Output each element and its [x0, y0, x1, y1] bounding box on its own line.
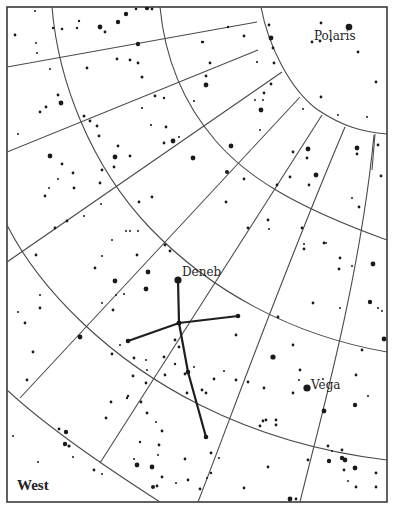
- star: [17, 311, 19, 313]
- star: [343, 469, 346, 472]
- star: [61, 163, 64, 166]
- star: [101, 255, 103, 257]
- star: [275, 419, 278, 422]
- star: [135, 8, 138, 11]
- star: [259, 108, 264, 113]
- star: [382, 337, 387, 342]
- star: [72, 172, 75, 175]
- star: [339, 257, 342, 260]
- star: [37, 461, 39, 463]
- star: [12, 435, 14, 437]
- star: [174, 339, 177, 342]
- star: [144, 287, 149, 292]
- star: [277, 316, 280, 319]
- star: [94, 267, 97, 270]
- star: [100, 203, 102, 205]
- star: [161, 430, 164, 433]
- star: [135, 463, 140, 468]
- star: [358, 206, 361, 209]
- star: [145, 359, 147, 361]
- star: [292, 392, 295, 395]
- star: [205, 392, 208, 395]
- star: [52, 27, 54, 29]
- star: [101, 473, 103, 475]
- constellation-line: [178, 280, 179, 323]
- star: [150, 124, 152, 126]
- star: [368, 300, 372, 304]
- star: [243, 487, 246, 490]
- star: [151, 485, 155, 489]
- star: [141, 76, 144, 79]
- star: [218, 457, 220, 459]
- star: [39, 111, 42, 114]
- star: [325, 242, 327, 244]
- star: [267, 219, 270, 222]
- constellation-star: [186, 370, 191, 375]
- star: [136, 254, 139, 257]
- star: [355, 486, 358, 489]
- label-deneb: Deneb: [182, 265, 222, 279]
- star: [361, 349, 364, 352]
- star-chart: PolarisDenebVega West: [0, 0, 393, 509]
- star: [263, 387, 266, 390]
- star: [67, 444, 70, 447]
- star: [247, 227, 250, 230]
- star-deneb[interactable]: [174, 276, 181, 283]
- star: [113, 279, 118, 284]
- star: [26, 379, 29, 382]
- star: [339, 307, 341, 309]
- star: [163, 142, 166, 145]
- star: [175, 482, 177, 484]
- star: [292, 344, 295, 347]
- star: [178, 136, 180, 138]
- star: [259, 129, 261, 131]
- star: [254, 99, 256, 101]
- star: [17, 133, 19, 135]
- star: [380, 175, 383, 178]
- star: [270, 83, 273, 86]
- direction-label-west: West: [17, 477, 49, 493]
- star: [76, 27, 78, 29]
- star: [367, 395, 369, 397]
- star: [276, 184, 279, 187]
- star: [299, 369, 302, 372]
- star: [314, 173, 319, 178]
- star: [265, 419, 268, 422]
- star: [151, 8, 154, 11]
- star: [96, 125, 99, 128]
- star: [133, 357, 136, 360]
- star: [269, 36, 274, 41]
- star: [104, 31, 107, 34]
- star: [111, 239, 113, 241]
- star: [58, 428, 61, 431]
- star: [163, 97, 165, 99]
- star: [308, 184, 311, 187]
- star: [322, 409, 327, 414]
- star: [307, 459, 310, 462]
- star: [57, 178, 59, 180]
- star-vega[interactable]: [303, 384, 310, 391]
- star: [116, 58, 119, 61]
- star: [263, 92, 266, 95]
- star: [157, 454, 159, 456]
- star: [39, 294, 41, 296]
- star: [163, 356, 166, 359]
- star: [156, 485, 159, 488]
- star: [35, 254, 38, 257]
- star: [169, 250, 172, 253]
- star: [210, 452, 213, 455]
- star: [298, 379, 300, 381]
- star: [78, 20, 80, 22]
- star: [262, 99, 264, 101]
- star: [73, 187, 76, 190]
- star: [61, 28, 64, 31]
- star: [356, 153, 359, 156]
- star: [36, 52, 38, 54]
- star: [259, 425, 262, 428]
- star: [229, 144, 234, 149]
- star: [235, 379, 238, 382]
- star: [83, 215, 85, 217]
- star: [210, 472, 212, 474]
- star: [101, 169, 104, 172]
- star: [191, 156, 196, 161]
